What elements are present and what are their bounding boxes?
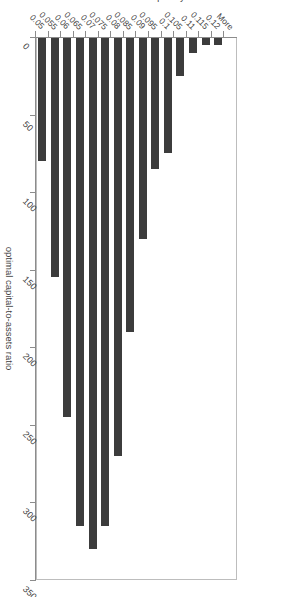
bar-row bbox=[99, 37, 112, 580]
value-tick bbox=[30, 192, 35, 193]
bar-row bbox=[74, 37, 87, 580]
value-axis-line bbox=[35, 37, 36, 581]
category-tick bbox=[211, 31, 212, 37]
category-tick bbox=[223, 31, 224, 37]
value-tick bbox=[30, 270, 35, 271]
category-tick bbox=[48, 31, 49, 37]
value-tick bbox=[30, 347, 35, 348]
bar-0.08 bbox=[114, 37, 122, 456]
bar-0.095 bbox=[151, 37, 159, 169]
bar-0.075 bbox=[101, 37, 109, 526]
rotated-figure-container: More0.120.1150.110.1050.10.0950.090.0850… bbox=[0, 0, 283, 597]
bar-row bbox=[212, 37, 225, 580]
bar-row bbox=[124, 37, 137, 580]
value-axis-title: frequency bbox=[143, 0, 185, 2]
value-tick bbox=[30, 37, 35, 38]
value-tick-label: 250 bbox=[21, 429, 28, 436]
bar-row bbox=[162, 37, 175, 580]
category-tick bbox=[186, 31, 187, 37]
bar-0.06 bbox=[63, 37, 71, 417]
category-tick bbox=[98, 31, 99, 37]
category-tick bbox=[110, 31, 111, 37]
bar-0.12 bbox=[214, 37, 222, 45]
value-tick-label: 200 bbox=[21, 351, 28, 358]
value-tick-label: 300 bbox=[21, 506, 28, 513]
bar-row bbox=[36, 37, 49, 580]
bar-0.085 bbox=[126, 37, 134, 332]
bar-row bbox=[49, 37, 62, 580]
category-tick bbox=[148, 31, 149, 37]
category-tick bbox=[123, 31, 124, 37]
value-tick-label: 50 bbox=[21, 119, 28, 126]
bar-0.05 bbox=[38, 37, 46, 161]
value-tick bbox=[30, 502, 35, 503]
bar-0.065 bbox=[76, 37, 84, 526]
bar-0.1 bbox=[164, 37, 172, 153]
value-tick bbox=[30, 425, 35, 426]
bar-chart: More0.120.1150.110.1050.10.0950.090.0850… bbox=[0, 0, 283, 597]
bar-row bbox=[111, 37, 124, 580]
bar-row bbox=[187, 37, 200, 580]
bar-0.11 bbox=[189, 37, 197, 53]
category-axis-title: optimal capital-to-assets ratio bbox=[4, 37, 15, 580]
bar-row bbox=[137, 37, 150, 580]
bar-row bbox=[199, 37, 212, 580]
bar-row bbox=[174, 37, 187, 580]
bar-row bbox=[61, 37, 74, 580]
bar-row bbox=[224, 37, 237, 580]
value-tick-label: 350 bbox=[21, 584, 28, 591]
category-tick bbox=[161, 31, 162, 37]
category-tick bbox=[85, 31, 86, 37]
category-tick bbox=[60, 31, 61, 37]
bar-row bbox=[86, 37, 99, 580]
bar-0.07 bbox=[89, 37, 97, 549]
bar-series bbox=[36, 37, 237, 580]
value-tick-label: 0 bbox=[21, 41, 28, 48]
category-tick bbox=[35, 31, 36, 37]
bar-0.115 bbox=[202, 37, 210, 45]
value-tick bbox=[30, 115, 35, 116]
category-axis-line bbox=[35, 37, 237, 38]
bar-row bbox=[149, 37, 162, 580]
category-tick bbox=[173, 31, 174, 37]
value-tick-label: 100 bbox=[21, 196, 28, 203]
bar-0.055 bbox=[51, 37, 59, 277]
category-tick bbox=[73, 31, 74, 37]
category-tick bbox=[136, 31, 137, 37]
bar-0.09 bbox=[139, 37, 147, 239]
value-tick-label: 150 bbox=[21, 274, 28, 281]
value-tick bbox=[30, 580, 35, 581]
category-tick bbox=[198, 31, 199, 37]
bar-0.105 bbox=[176, 37, 184, 76]
